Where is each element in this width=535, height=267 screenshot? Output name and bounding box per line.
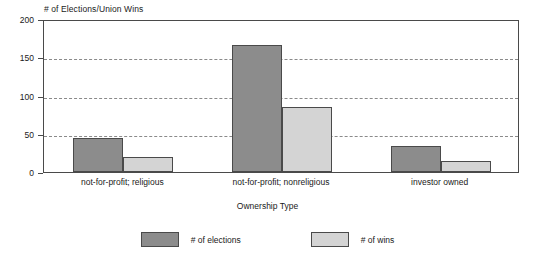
bar-chart-figure: # of Elections/Union Wins 050100150200 n… — [0, 0, 535, 267]
plot-inner — [44, 21, 518, 172]
legend-item[interactable]: # of elections — [141, 232, 241, 247]
y-tick-mark-200 — [38, 20, 43, 21]
y-tick-label: 50 — [0, 130, 34, 140]
y-tick-mark-100 — [38, 97, 43, 98]
x-category-label: not-for-profit; nonreligious — [233, 177, 330, 187]
x-axis-title: Ownership Type — [0, 201, 535, 211]
y-tick-mark-0 — [38, 173, 43, 174]
y-tick-label: 150 — [0, 53, 34, 63]
bar — [232, 45, 282, 172]
legend-label: # of wins — [361, 235, 395, 245]
y-tick-label: 0 — [0, 168, 34, 178]
legend-swatch — [141, 232, 179, 247]
bar — [441, 161, 491, 172]
y-axis-title: # of Elections/Union Wins — [44, 4, 143, 14]
bar — [123, 157, 173, 172]
bar — [391, 146, 441, 172]
chart-legend: # of elections# of wins — [0, 232, 535, 247]
legend-item[interactable]: # of wins — [311, 232, 395, 247]
legend-label: # of elections — [191, 235, 241, 245]
y-tick-label: 100 — [0, 92, 34, 102]
x-category-label: not-for-profit; religious — [81, 177, 164, 187]
legend-swatch — [311, 232, 349, 247]
plot-area — [43, 20, 519, 173]
y-tick-label: 200 — [0, 15, 34, 25]
y-tick-mark-150 — [38, 58, 43, 59]
y-tick-mark-50 — [38, 135, 43, 136]
y-axis-spine — [43, 20, 44, 173]
bar — [282, 107, 332, 172]
x-category-label: investor owned — [411, 177, 468, 187]
bar — [73, 138, 123, 172]
